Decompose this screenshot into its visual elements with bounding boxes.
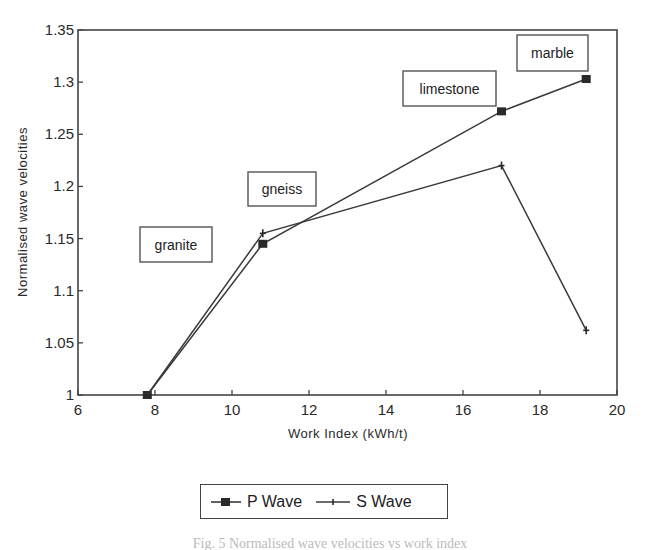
annotation-label-gneiss: gneiss (262, 181, 302, 197)
y-tick-label: 1.05 (45, 334, 74, 351)
rock-type-annotations: granitegneisslimestonemarble (140, 35, 588, 262)
p-wave-marker (258, 240, 267, 248)
annotation-label-limestone: limestone (420, 81, 480, 97)
chart-legend: P Wave S Wave (200, 484, 448, 519)
annotation-label-granite: granite (155, 237, 198, 253)
y-tick-label: 1.3 (53, 73, 74, 90)
s-wave-line (147, 166, 586, 395)
x-tick-label: 6 (74, 401, 82, 418)
p-wave-line (147, 79, 586, 395)
x-tick-label: 8 (151, 401, 159, 418)
annotation-label-marble: marble (531, 45, 574, 61)
x-tick-label: 14 (378, 401, 395, 418)
y-tick-label: 1 (66, 386, 74, 403)
y-tick-label: 1.15 (45, 230, 74, 247)
line-chart: 68101214161820 11.051.11.151.21.251.31.3… (0, 0, 647, 480)
x-axis-title: Work Index (kWh/t) (288, 426, 408, 441)
y-tick-label: 1.35 (45, 21, 74, 38)
y-axis-title: Normalised wave velocities (15, 127, 30, 297)
x-tick-label: 20 (609, 401, 626, 418)
x-tick-label: 18 (532, 401, 549, 418)
y-tick-label: 1.25 (45, 125, 74, 142)
y-tick-label: 1.2 (53, 177, 74, 194)
x-tick-label: 10 (224, 401, 241, 418)
plus-marker-line-icon (316, 496, 350, 508)
plot-axes (78, 30, 617, 395)
legend-item-s-wave: S Wave (316, 493, 411, 511)
p-wave-marker (582, 75, 591, 83)
y-tick-label: 1.1 (53, 282, 74, 299)
plot-frame (78, 30, 617, 395)
legend-item-p-wave: P Wave (211, 493, 302, 511)
x-tick-label: 12 (301, 401, 318, 418)
square-marker-line-icon (211, 496, 241, 508)
figure-caption: Fig. 5 Normalised wave velocities vs wor… (150, 536, 510, 550)
p-wave-marker (497, 107, 506, 115)
legend-label-p-wave: P Wave (247, 493, 302, 511)
x-tick-label: 16 (455, 401, 472, 418)
legend-label-s-wave: S Wave (356, 493, 411, 511)
